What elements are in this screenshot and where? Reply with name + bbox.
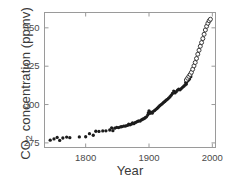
data-point [197,48,201,52]
x-axis-tick-label: 2000 [195,152,227,163]
data-series-0 [49,75,193,142]
data-series-1 [184,17,212,82]
data-point [61,136,64,139]
data-point [56,136,59,139]
data-point [208,17,212,21]
data-point [65,135,68,138]
y-axis-tick-label: 325 [14,60,40,71]
data-point [92,134,95,137]
y-axis-tick-label: 350 [14,22,40,33]
data-point [84,135,87,138]
data-point [68,136,71,139]
x-axis-tick-label: 1900 [132,152,166,163]
y-axis-tick-label: 300 [14,99,40,110]
data-point [58,139,61,142]
data-point [78,135,81,138]
data-point [101,129,104,132]
data-point [104,129,107,132]
data-point [202,32,206,36]
data-point [94,130,97,133]
x-axis-title: Year [44,163,216,178]
data-point [201,37,205,41]
x-axis-tick-label: 1800 [69,152,103,163]
data-point [193,61,197,65]
data-point [52,137,55,140]
data-point [88,132,91,135]
y-axis-tick-label: 275 [14,137,40,148]
data-point [49,138,52,141]
data-point [200,41,204,45]
co2-concentration-chart: CO2 concentration (ppmv) Year 2753003253… [0,0,227,185]
data-point [195,57,199,61]
data-point [196,52,200,56]
data-point [97,130,100,133]
